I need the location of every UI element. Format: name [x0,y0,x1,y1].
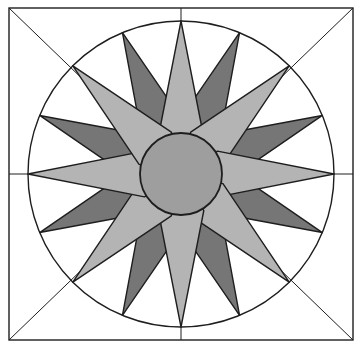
compass-diagram: Mariner's compass quilt block [0,0,357,344]
center-circle [140,133,222,215]
compass-svg [0,0,357,344]
center-disc [140,133,222,215]
